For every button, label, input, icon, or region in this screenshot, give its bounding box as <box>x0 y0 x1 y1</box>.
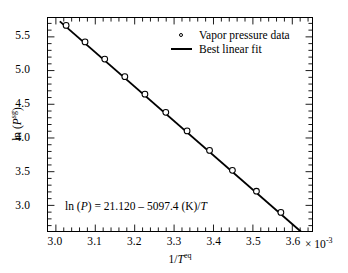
legend-item-fit: Best linear fit <box>168 42 290 56</box>
y-title-tail: ) <box>11 107 23 111</box>
y-title-lead: ln ( <box>11 125 23 141</box>
open-circle-icon <box>168 33 194 37</box>
y-title-superscript: sg <box>9 111 18 118</box>
x-multiplier-base: × 10 <box>305 238 326 250</box>
x-tick-label: 3.2 <box>127 236 142 248</box>
data-point <box>278 210 284 216</box>
data-point <box>254 188 260 194</box>
x-title-superscript: eq <box>184 251 192 260</box>
x-tick-label: 3.3 <box>167 236 182 248</box>
equation-mid: ) = 21.120 – 5097.4 (K)/ <box>88 200 201 212</box>
x-tick-label: 3.5 <box>246 236 261 248</box>
data-point <box>207 148 213 154</box>
equation-t-symbol: T <box>201 200 207 212</box>
data-point <box>230 167 236 173</box>
data-point <box>184 128 190 134</box>
equation-lead: ln ( <box>65 200 81 212</box>
x-axis-title: 1/Teq <box>169 251 192 265</box>
x-title-lead: 1/ <box>169 253 178 265</box>
x-tick-label: 3.6 <box>286 236 301 248</box>
x-tick-label: 3.4 <box>206 236 221 248</box>
x-tick-label: 3.1 <box>87 236 102 248</box>
equation-p-symbol: P <box>81 200 88 212</box>
data-point <box>63 23 69 29</box>
legend-item-data: Vapor pressure data <box>168 28 290 42</box>
data-point <box>142 91 148 97</box>
data-point <box>163 109 169 115</box>
x-axis-multiplier: × 10-3 <box>305 236 333 250</box>
vapor-pressure-chart: 3.03.54.04.55.05.5 3.03.13.23.33.43.53.6… <box>0 0 348 273</box>
data-point <box>82 39 88 45</box>
y-tick-label: 5.5 <box>15 30 30 42</box>
chart-legend: Vapor pressure data Best linear fit <box>168 28 290 56</box>
y-tick-label: 3.0 <box>15 200 30 212</box>
y-axis-title: ln (Psg) <box>9 107 23 141</box>
solid-line-icon <box>168 48 194 50</box>
y-title-symbol: P <box>11 118 23 125</box>
legend-label-data: Vapor pressure data <box>194 28 290 42</box>
data-point <box>102 56 108 62</box>
y-tick-label: 3.5 <box>15 166 30 178</box>
data-point <box>122 74 128 80</box>
legend-label-fit: Best linear fit <box>194 42 262 56</box>
x-tick-label: 3.0 <box>48 236 63 248</box>
fit-equation-annotation: ln (P) = 21.120 – 5097.4 (K)/T <box>65 200 207 212</box>
x-multiplier-exponent: -3 <box>326 236 333 245</box>
y-tick-label: 5.0 <box>15 64 30 76</box>
